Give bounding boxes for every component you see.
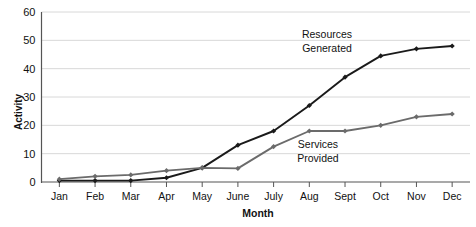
data-point-marker bbox=[414, 114, 419, 119]
data-point-marker bbox=[414, 46, 419, 51]
y-tick-label: 20 bbox=[23, 119, 35, 131]
series-line bbox=[59, 114, 452, 179]
y-tick-label: 40 bbox=[23, 63, 35, 75]
y-tick-label: 10 bbox=[23, 148, 35, 160]
data-point-marker bbox=[450, 111, 455, 116]
series-2 bbox=[57, 111, 455, 181]
plot-area: 0102030405060 JanFebMarAprMayJuneJulyAug… bbox=[0, 0, 476, 227]
x-tick-labels: JanFebMarAprMayJuneJulyAugSeptOctNovDec bbox=[51, 190, 462, 202]
series-1 bbox=[57, 43, 455, 183]
series-line bbox=[59, 46, 452, 181]
x-tick-label: July bbox=[264, 190, 283, 202]
data-point-marker bbox=[92, 174, 97, 179]
x-tick-label: Mar bbox=[122, 190, 141, 202]
data-point-marker bbox=[128, 172, 133, 177]
x-tick-label: Nov bbox=[407, 190, 426, 202]
data-point-marker bbox=[164, 168, 169, 173]
y-tick-label: 50 bbox=[23, 34, 35, 46]
series-annotation-label: Resources bbox=[302, 28, 352, 40]
x-tick-marks bbox=[59, 182, 452, 187]
y-tick-label: 0 bbox=[29, 176, 35, 188]
x-tick-label: Oct bbox=[373, 190, 389, 202]
x-tick-label: Jan bbox=[51, 190, 68, 202]
series-annotation-label: Generated bbox=[302, 42, 352, 54]
data-point-marker bbox=[450, 43, 455, 48]
data-point-marker bbox=[164, 175, 169, 180]
data-series-layer bbox=[57, 43, 455, 183]
gridlines bbox=[42, 12, 471, 154]
x-tick-label: June bbox=[227, 190, 250, 202]
series-annotations: ResourcesGeneratedServicesProvided bbox=[297, 28, 352, 164]
y-tick-labels: 0102030405060 bbox=[23, 6, 35, 188]
series-annotation-label: Services bbox=[298, 138, 338, 150]
y-tick-label: 30 bbox=[23, 91, 35, 103]
data-point-marker bbox=[342, 128, 347, 133]
x-tick-label: May bbox=[192, 190, 213, 202]
x-tick-label: Sept bbox=[334, 190, 356, 202]
x-tick-label: Feb bbox=[86, 190, 104, 202]
x-tick-label: Aug bbox=[300, 190, 319, 202]
data-point-marker bbox=[378, 123, 383, 128]
line-chart: Activity Month 0102030405060 JanFebMarAp… bbox=[0, 0, 476, 227]
x-tick-label: Dec bbox=[443, 190, 462, 202]
x-tick-label: Apr bbox=[158, 190, 175, 202]
y-tick-label: 60 bbox=[23, 6, 35, 18]
series-annotation-label: Provided bbox=[297, 152, 339, 164]
